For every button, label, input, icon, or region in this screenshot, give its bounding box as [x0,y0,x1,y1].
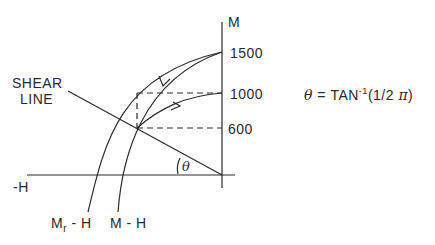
angle-label: θ [182,160,190,173]
m-h-curve-label: M - H [110,216,147,230]
dashed-guides [137,93,222,128]
mr-h-rest: - H [67,215,92,231]
tick-label-1000: 1000 [230,87,263,101]
mr-h-main: M [51,215,63,231]
shear-line-label-line2: LINE [20,92,53,106]
diagram-canvas [0,0,435,245]
mr-h-curve-label: Mr - H [51,216,92,230]
formula-sup: -1 [359,86,368,96]
tick-label-600: 600 [228,122,253,136]
tick-label-1500: 1500 [230,46,263,60]
formula-arg-close: ) [408,87,413,103]
mr-h-curve [88,52,222,212]
mr-h-sub: r [63,223,67,234]
h-axis-label: -H [13,180,29,194]
arrow-up-icon [171,102,180,110]
angle-arc [177,158,180,174]
m-axis-label: M [228,15,240,29]
formula-pi: π [398,87,408,103]
formula-theta: θ [304,87,313,103]
shear-line-label-line1: SHEAR [12,76,63,90]
shear-line [68,91,222,175]
formula-arg-open: (1/2 [368,87,399,103]
m-h-curve [118,52,222,212]
formula-eq: = TAN [313,87,359,103]
formula: θ = TAN-1(1/2 π) [304,88,413,102]
recoil-curve [137,93,222,128]
